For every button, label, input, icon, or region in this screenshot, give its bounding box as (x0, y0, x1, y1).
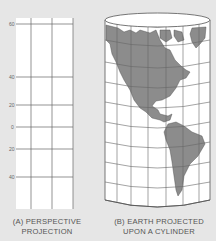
caption-a-line2: PROJECTION (4, 227, 90, 237)
caption-b: (B) EARTH PROJECTED UPON A CYLINDER (104, 217, 214, 236)
lat-label-60n: 60 (9, 21, 15, 27)
lat-label-40s: 40 (9, 174, 15, 180)
earth-cylinder (105, 13, 210, 207)
latitude-labels: 60 40 20 0 20 40 (9, 21, 15, 180)
caption-b-line2: UPON A CYLINDER (104, 227, 214, 237)
caption-a-line1: (A) PERSPECTIVE (4, 217, 90, 227)
caption-b-line1: (B) EARTH PROJECTED (104, 217, 214, 227)
lat-label-40n: 40 (9, 74, 15, 80)
perspective-grid (16, 18, 73, 209)
caption-a: (A) PERSPECTIVE PROJECTION (4, 217, 90, 236)
lat-label-20s: 20 (9, 146, 15, 152)
lat-label-20n: 20 (9, 102, 15, 108)
projection-diagram: 60 40 20 0 20 40 (0, 0, 216, 241)
lat-label-0: 0 (11, 124, 14, 130)
